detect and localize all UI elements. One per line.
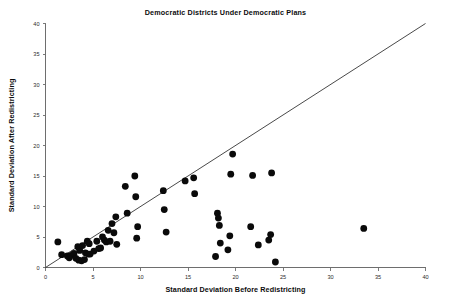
data-point <box>122 183 129 190</box>
x-axis-ticks: 0510152025303540 <box>44 268 429 280</box>
data-point <box>133 235 140 242</box>
x-tick-label: 15 <box>185 274 191 280</box>
data-point <box>132 193 139 200</box>
y-axis-ticks: 0510152025303540 <box>33 21 45 271</box>
data-point <box>247 223 254 230</box>
data-point <box>229 151 236 158</box>
x-tick-label: 25 <box>280 274 286 280</box>
y-tick-label: 40 <box>33 21 39 27</box>
plot-area: 0510152025303540 0510152025303540 Standa… <box>0 0 451 306</box>
data-point <box>86 240 93 247</box>
x-tick-label: 10 <box>137 274 143 280</box>
y-tick-label: 5 <box>36 234 39 240</box>
data-point <box>255 242 262 249</box>
data-points <box>54 151 367 266</box>
identity-reference-line <box>46 24 426 268</box>
x-tick-label: 0 <box>44 274 47 280</box>
x-tick-label: 30 <box>327 274 333 280</box>
scatter-chart: Democratic Districts Under Democratic Pl… <box>0 0 451 306</box>
data-point <box>93 238 100 245</box>
y-tick-label: 25 <box>33 112 39 118</box>
data-point <box>54 238 61 245</box>
data-point <box>124 210 131 217</box>
data-point <box>113 241 120 248</box>
x-tick-label: 20 <box>232 274 238 280</box>
data-point <box>161 206 168 213</box>
x-tick-label: 35 <box>375 274 381 280</box>
data-point <box>191 190 198 197</box>
data-point <box>190 174 197 181</box>
data-point <box>212 253 219 260</box>
data-point <box>97 245 104 252</box>
data-point <box>160 187 167 194</box>
data-point <box>134 223 141 230</box>
x-tick-label: 5 <box>91 274 94 280</box>
data-point <box>112 213 119 220</box>
y-axis-label: Standard Deviation After Redistricting <box>7 79 16 213</box>
data-point <box>268 170 275 177</box>
y-tick-label: 35 <box>33 51 39 57</box>
data-point <box>131 173 138 180</box>
data-point <box>182 177 189 184</box>
data-point <box>217 240 224 247</box>
data-point <box>225 246 232 253</box>
y-tick-label: 10 <box>33 204 39 210</box>
data-point <box>227 171 234 178</box>
data-point <box>109 220 116 227</box>
y-tick-label: 30 <box>33 82 39 88</box>
data-point <box>58 251 65 258</box>
data-point <box>215 215 222 222</box>
data-point <box>249 172 256 179</box>
data-point <box>81 256 88 263</box>
data-point <box>272 259 279 266</box>
x-tick-label: 40 <box>422 274 428 280</box>
y-tick-label: 0 <box>36 265 39 271</box>
data-point <box>226 232 233 239</box>
data-point <box>111 229 118 236</box>
data-point <box>360 225 367 232</box>
data-point <box>267 231 274 238</box>
data-point <box>107 238 114 245</box>
y-tick-label: 15 <box>33 173 39 179</box>
y-tick-label: 20 <box>33 143 39 149</box>
data-point <box>216 222 223 229</box>
x-axis-label: Standard Deviation Before Redistricting <box>165 285 305 294</box>
data-point <box>163 229 170 236</box>
